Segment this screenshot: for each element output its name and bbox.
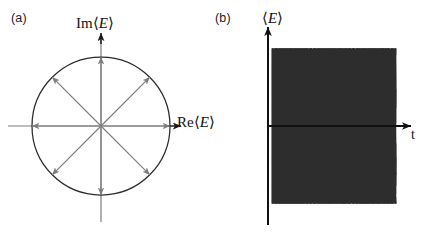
phasor-arrow	[52, 77, 101, 126]
phasor-arrow-group	[32, 57, 170, 195]
phasor-arrow	[101, 126, 150, 175]
time-series-svg	[215, 0, 430, 235]
panel-a-axes	[8, 33, 181, 222]
figure-root: (a) Im⟨E⟩ Re⟨E⟩	[0, 0, 430, 235]
panel-b: (b) ⟨E⟩ t	[215, 0, 430, 235]
phasor-arrow	[52, 126, 101, 175]
phasor-arrow	[101, 77, 150, 126]
phasor-diagram-svg	[0, 0, 215, 235]
panel-a: (a) Im⟨E⟩ Re⟨E⟩	[0, 0, 215, 235]
